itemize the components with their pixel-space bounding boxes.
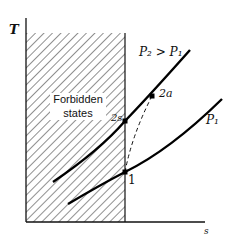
forbidden-label-line2: states [52,108,104,119]
forbidden-label-line1: Forbidden [52,94,104,105]
point-2a-marker [150,94,155,99]
isobar-p1-label: P₁ [206,114,219,126]
forbidden-region [26,33,125,222]
point-1-marker [123,170,128,175]
point-2a-label: 2a [159,88,173,99]
isobar-p2-label: P₂ > P₁ [139,46,182,58]
point-2s-label: 2s [111,113,123,123]
x-axis-label: s [204,227,209,236]
forbidden-states-label: Forbidden states [50,93,106,120]
y-axis-label: T [9,23,19,36]
point-2s-marker [123,119,128,124]
point-1-label: 1 [128,174,136,186]
